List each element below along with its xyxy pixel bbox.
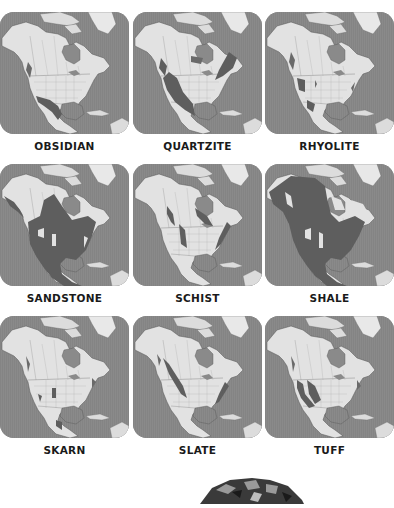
map-sandstone <box>0 164 129 286</box>
map-label-skarn: SKARN <box>0 444 129 456</box>
map-schist <box>133 164 262 286</box>
map-label-tuff: TUFF <box>265 444 394 456</box>
map-label-quartzite: QUARTZITE <box>133 140 262 152</box>
map-label-sandstone: SANDSTONE <box>0 292 129 304</box>
map-label-schist: SCHIST <box>133 292 262 304</box>
map-shale <box>265 164 394 286</box>
map-label-slate: SLATE <box>133 444 262 456</box>
map-label-shale: SHALE <box>265 292 394 304</box>
map-tuff <box>265 316 394 438</box>
map-quartzite <box>133 12 262 134</box>
map-slate <box>133 316 262 438</box>
map-label-rhyolite: RHYOLITE <box>265 140 394 152</box>
map-skarn <box>0 316 129 438</box>
rock-specimen-image <box>196 474 306 504</box>
map-label-obsidian: OBSIDIAN <box>0 140 129 152</box>
map-rhyolite <box>265 12 394 134</box>
map-obsidian <box>0 12 129 134</box>
